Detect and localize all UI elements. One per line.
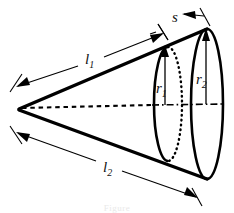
l2-arrowhead-right (184, 187, 198, 198)
label-l1: l1 (85, 51, 94, 70)
s-arrowhead-right (182, 11, 196, 19)
axis-line-dashed (22, 105, 152, 108)
label-l2: l2 (103, 159, 112, 178)
l1-arrowhead-right (150, 33, 164, 43)
label-r2: r2 (196, 71, 207, 90)
s-right-ext-tick (200, 8, 210, 26)
l1-arrowhead-left (16, 77, 30, 87)
l2-arrowhead-left (16, 132, 30, 142)
cone-upper-slant-edge (19, 29, 207, 109)
label-s: s (172, 9, 178, 25)
axis-line-dashdot (152, 104, 224, 105)
dimension-l1: l1 (10, 24, 168, 92)
small-ellipse-front-arc (154, 47, 168, 161)
dimension-r1: r1 (156, 45, 169, 105)
l1-apex-tick (10, 74, 22, 92)
s-left-ext-tick (158, 24, 168, 40)
cone-frustum-diagram: l1 l2 r1 r2 s (0, 0, 234, 213)
l2-dimension-line (18, 133, 96, 161)
caption-ghost-text: Figure (0, 203, 234, 213)
s-dimension-line-left (150, 32, 156, 34)
